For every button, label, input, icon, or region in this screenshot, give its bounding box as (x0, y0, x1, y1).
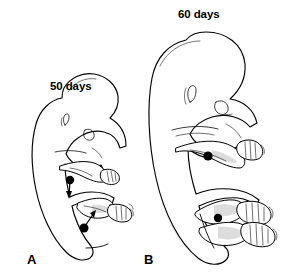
panel-b-letter: B (144, 252, 153, 267)
panel-b-age-label: 60 days (178, 8, 220, 20)
panel-b-elbow-marker-dot (203, 151, 212, 160)
embryo-illustration-canvas: 50 days A (0, 0, 302, 276)
panel-a-letter: A (27, 252, 37, 267)
panel-a-knee-marker-dot (80, 224, 89, 233)
panel-a-age-label: 50 days (50, 80, 92, 92)
panel-b-knee-marker-dot (214, 214, 222, 222)
panel-b-hand (237, 140, 263, 160)
embryo-comparison-figure: 50 days A (0, 0, 302, 276)
